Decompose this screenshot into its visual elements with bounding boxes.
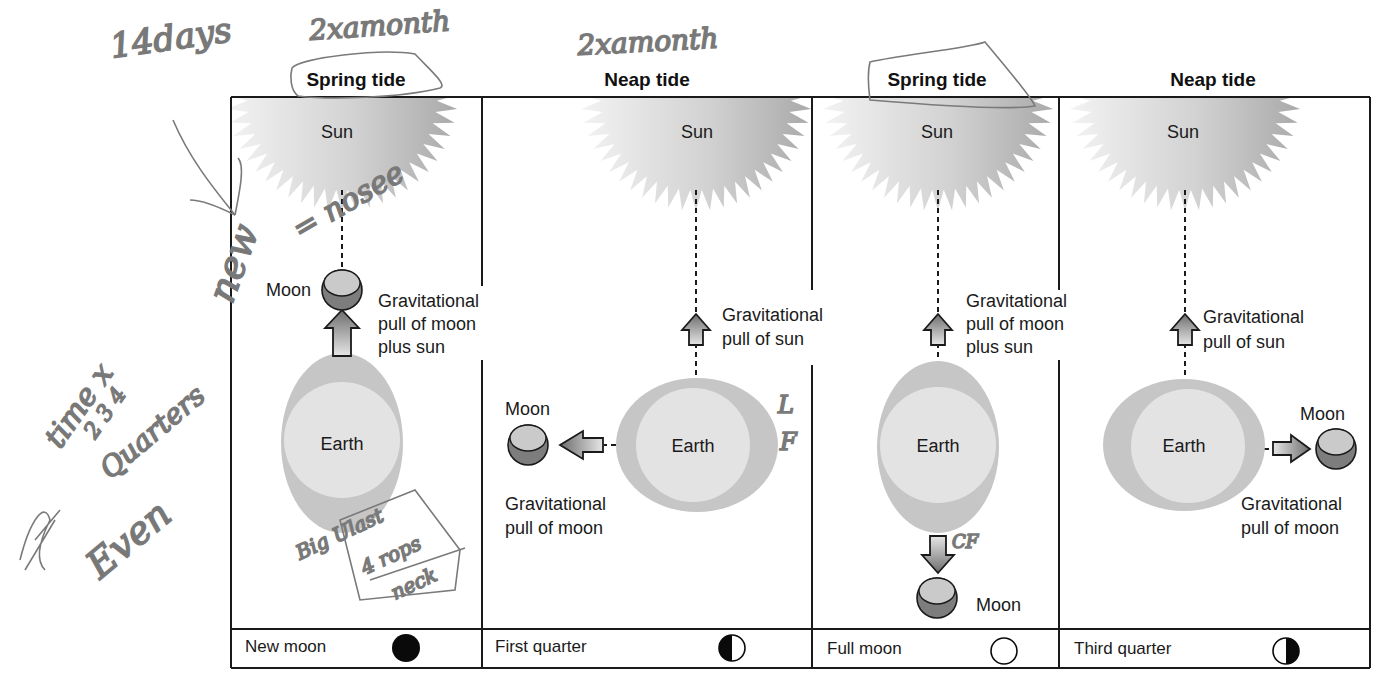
pull-label-line: Gravitational (505, 494, 606, 514)
pull-label-line: pull of moon (505, 518, 603, 538)
arrow-up-icon (924, 314, 952, 345)
arrow-up-icon (682, 314, 710, 345)
pull-label-line: plus sun (378, 337, 445, 357)
annotation-new: new (199, 218, 268, 308)
panel-3: Earth Gravitational pull of moon plus su… (877, 291, 1067, 618)
panel-3-title: Spring tide (887, 69, 986, 90)
annotation-2xamonth: 2xamonth (576, 22, 720, 62)
phase-label: First quarter (495, 637, 587, 656)
moon-label: Moon (976, 595, 1021, 615)
annotation-L: L (777, 391, 794, 419)
pull-label-line: Gravitational (1203, 307, 1304, 327)
moon-label: Moon (266, 280, 311, 300)
pull-label-line: Gravitational (966, 291, 1067, 311)
pull-label-line: pull of moon (966, 314, 1064, 334)
moon-icon (508, 425, 548, 465)
annotation-2xamonth: 2xamonth (307, 4, 451, 47)
moon-label: Moon (505, 399, 550, 419)
annotation-box-note: neck (387, 562, 441, 604)
panel-2: Earth Gravitational pull of sun Moon Gra… (505, 305, 823, 538)
earth-label: Earth (671, 436, 714, 456)
tide-diagram: Spring tide Neap tide Spring tide Neap t… (0, 0, 1391, 679)
earth-label: Earth (1162, 436, 1205, 456)
pull-label-line: plus sun (966, 337, 1033, 357)
handwritten-annotations: 14days 2xamonth 2xamonth new = nosee tim… (20, 4, 1035, 604)
pull-label-line: pull of moon (1241, 518, 1339, 538)
full-moon-icon (991, 638, 1017, 664)
panel-4-title: Neap tide (1170, 69, 1256, 90)
first-quarter-moon-icon (719, 635, 745, 661)
arrow-up-icon (325, 310, 359, 356)
moon-icon (1316, 429, 1356, 469)
annotation-14days: 14days (108, 9, 234, 66)
sun-label: Sun (321, 122, 353, 142)
pull-label-line: Gravitational (1241, 494, 1342, 514)
sun-label: Sun (1167, 122, 1199, 142)
new-moon-icon (392, 634, 420, 662)
sun-label: Sun (921, 122, 953, 142)
pull-label-line: Gravitational (722, 305, 823, 325)
phase-label: Full moon (827, 639, 902, 658)
sun-label: Sun (681, 122, 713, 142)
panel-2-title: Neap tide (604, 69, 690, 90)
arrow-down-icon (922, 536, 954, 573)
moon-icon (917, 578, 957, 618)
phase-row: New moon First quarter Full moon Third q… (245, 634, 1299, 664)
annotation-CF: CF (952, 531, 980, 552)
pull-label-line: Gravitational (378, 291, 479, 311)
arrow-left-icon (560, 431, 603, 459)
moon-label: Moon (1300, 404, 1345, 424)
phase-label: Third quarter (1074, 639, 1172, 658)
panel-1: Earth Moon Gravitational pull of moon pl… (266, 270, 479, 533)
arrow-up-icon (1171, 314, 1199, 345)
pull-label-line: pull of sun (722, 329, 804, 349)
pull-label-line: pull of moon (378, 314, 476, 334)
arrow-right-icon (1273, 435, 1310, 462)
moon-icon (322, 270, 362, 310)
panel-1-title: Spring tide (306, 69, 405, 90)
phase-label: New moon (245, 637, 326, 656)
earth-label: Earth (916, 436, 959, 456)
pull-label-line: pull of sun (1203, 332, 1285, 352)
annotation-even: Even (77, 491, 180, 587)
annotation-F: F (779, 428, 798, 456)
earth-label: Earth (320, 434, 363, 454)
third-quarter-moon-icon (1273, 638, 1299, 664)
panel-4: Earth Gravitational pull of sun Moon Gra… (1103, 307, 1356, 538)
